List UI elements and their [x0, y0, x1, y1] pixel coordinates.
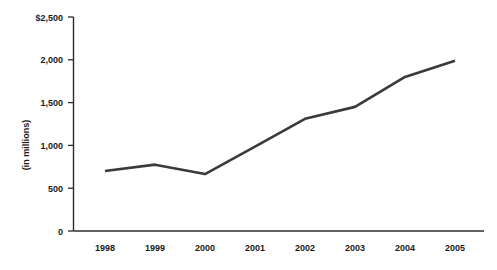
y-axis-title: (in millions) [21, 120, 31, 171]
y-tick-label-1500: 1,500 [40, 98, 63, 108]
y-tick-marks [68, 17, 74, 231]
x-tick-label-2004: 2004 [395, 243, 415, 253]
y-tick-label-500: 500 [48, 184, 63, 194]
x-tick-label-2005: 2005 [445, 243, 465, 253]
y-tick-label-2500: $2,500 [35, 13, 63, 23]
x-tick-label-1999: 1999 [145, 243, 165, 253]
y-tick-label-0: 0 [58, 227, 63, 237]
data-series-line [105, 61, 455, 174]
x-tick-label-2000: 2000 [195, 243, 215, 253]
x-tick-label-2002: 2002 [295, 243, 315, 253]
x-tick-label-2001: 2001 [245, 243, 265, 253]
line-chart: $2,500 2,000 1,500 1,000 500 0 (in milli… [0, 0, 497, 270]
x-tick-label-1998: 1998 [95, 243, 115, 253]
chart-canvas: $2,500 2,000 1,500 1,000 500 0 (in milli… [0, 0, 497, 270]
y-tick-label-1000: 1,000 [40, 141, 63, 151]
x-tick-label-2003: 2003 [345, 243, 365, 253]
y-tick-label-2000: 2,000 [40, 55, 63, 65]
